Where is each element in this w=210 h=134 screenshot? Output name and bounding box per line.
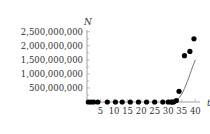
- data-point: [128, 99, 133, 104]
- y-tick-label: 1,000,000,000: [21, 69, 83, 79]
- x-tick-label: 10: [109, 106, 120, 116]
- data-point: [191, 36, 196, 41]
- model-curve: [168, 60, 195, 102]
- data-point: [187, 49, 192, 54]
- data-point: [136, 99, 141, 104]
- x-tick-label: 15: [122, 106, 133, 116]
- data-point: [160, 99, 165, 104]
- data-point: [113, 99, 118, 104]
- x-tick-label: 35: [176, 106, 187, 116]
- x-tick-label: 30: [163, 106, 174, 116]
- x-tick-label: 40: [190, 106, 201, 116]
- data-point: [95, 99, 100, 104]
- data-point: [120, 99, 125, 104]
- y-tick-label: 2,000,000,000: [21, 41, 83, 51]
- data-points: [86, 36, 197, 104]
- data-point: [105, 99, 110, 104]
- y-tick-label: 500,000,000: [29, 83, 83, 93]
- y-axis-title: N: [83, 17, 93, 27]
- x-tick-label: 5: [98, 106, 103, 116]
- y-axis-ticks: 500,000,0001,000,000,0001,500,000,0002,0…: [21, 27, 90, 95]
- data-point: [152, 99, 157, 104]
- data-point: [144, 99, 149, 104]
- data-point: [176, 89, 181, 94]
- population-chart: 500,000,0001,000,000,0001,500,000,0002,0…: [0, 0, 210, 134]
- data-point: [174, 98, 179, 103]
- x-tick-label: 25: [149, 106, 160, 116]
- x-axis-title: t: [207, 98, 210, 108]
- y-tick-label: 2,500,000,000: [21, 27, 83, 37]
- x-tick-label: 20: [136, 106, 147, 116]
- y-tick-label: 1,500,000,000: [21, 55, 83, 65]
- data-point: [182, 53, 187, 58]
